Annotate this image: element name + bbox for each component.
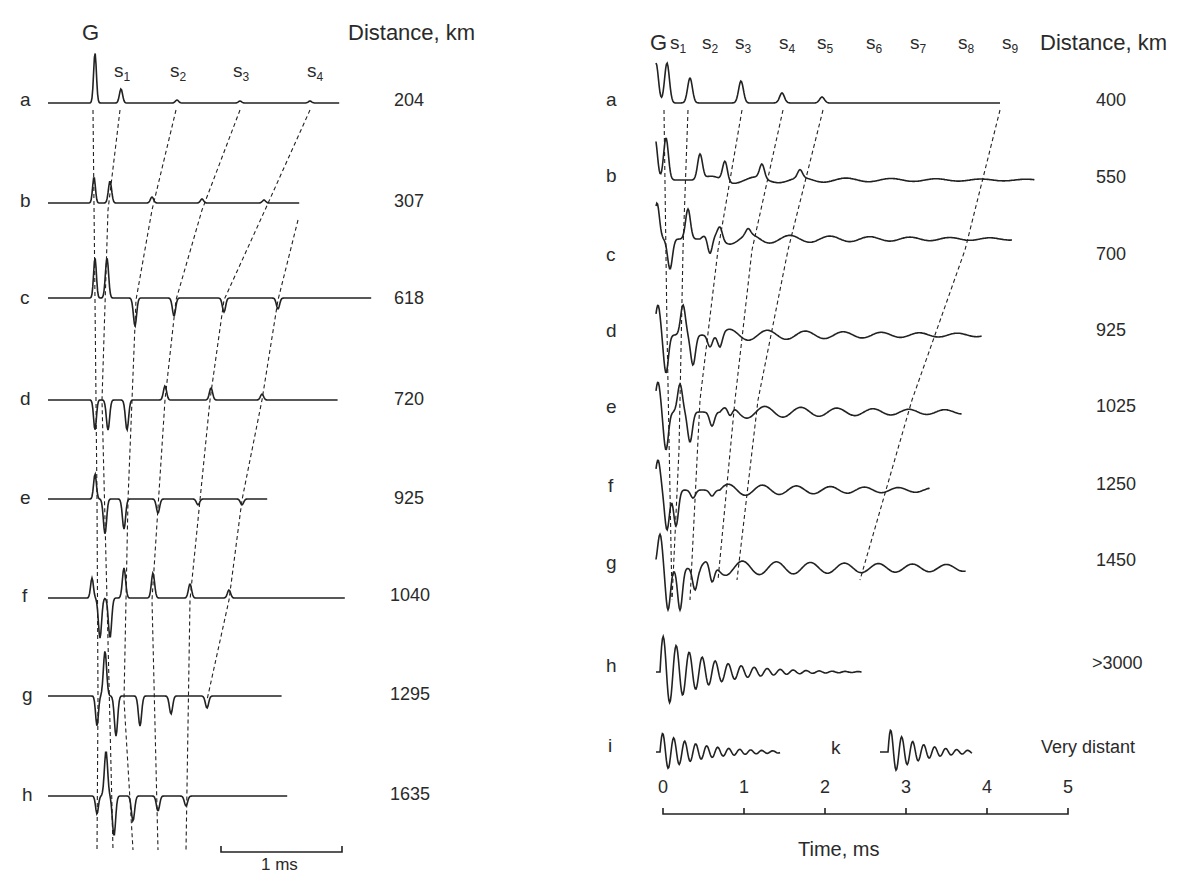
waveform-trace [656,460,930,530]
x-tick-1: 1 [739,777,749,798]
right-row-label-c: c [606,244,616,266]
right-g-label: G [650,30,667,56]
x-tick-5: 5 [1063,777,1073,798]
waveform-trace [656,139,1034,184]
right-row-label-d: d [606,320,617,342]
waveform-trace [880,730,972,770]
right-distance-b: 550 [1096,167,1126,188]
waveform-trace [656,383,962,450]
right-phase-s2: s2 [702,32,718,56]
right-phase-s1: s1 [670,32,686,56]
x-tick-3: 3 [901,777,911,798]
time-axis [663,808,1068,814]
right-phase-s7: s7 [910,32,926,56]
x-tick-4: 4 [982,777,992,798]
right-row-label-g: g [606,552,617,574]
right-row-label-i: i [608,735,612,757]
right-row-label-a: a [606,89,617,111]
right-row-label-h: h [606,655,617,677]
right-waveform-plot [0,0,1198,893]
waveform-trace [656,203,1012,269]
right-row-label-f: f [608,475,613,497]
right-phase-s6: s6 [866,32,882,56]
waveform-trace [656,63,1000,103]
right-distance-h: >3000 [1092,653,1143,674]
right-phase-s9: s9 [1002,32,1018,56]
right-phase-s8: s8 [958,32,974,56]
waveform-trace [656,534,966,610]
right-distance-f: 1250 [1096,474,1136,495]
x-tick-0: 0 [658,777,668,798]
phase-curve-s5 [737,110,823,580]
waveform-trace [656,734,780,769]
right-row-label-e: e [606,396,617,418]
phase-curve-s2 [672,110,688,600]
right-phase-s5: s5 [817,32,833,56]
right-distance-i: Very distant [1041,737,1135,758]
right-distance-e: 1025 [1096,396,1136,417]
phase-curve-s4 [718,110,783,580]
right-distance-c: 700 [1096,244,1126,265]
right-phase-s4: s4 [779,32,795,56]
waveform-trace [656,637,862,703]
right-row-label-b: b [606,165,617,187]
right-distance-a: 400 [1096,90,1126,111]
right-phase-s3: s3 [735,32,751,56]
x-axis-label: Time, ms [798,838,879,861]
right-distance-g: 1450 [1096,550,1136,571]
right-distance-header: Distance, km [1040,30,1167,56]
x-tick-2: 2 [820,777,830,798]
right-distance-d: 925 [1096,320,1126,341]
right-row-label-k: k [831,737,841,759]
